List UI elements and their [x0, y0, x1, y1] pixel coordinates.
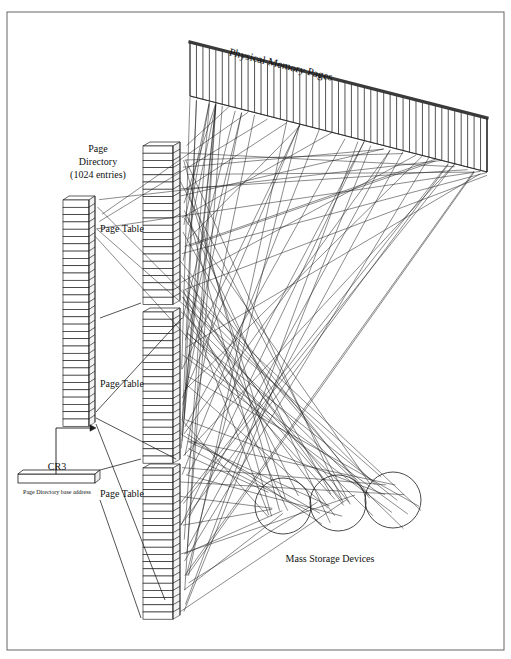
page-directory-cell: [63, 419, 89, 426]
page-table-top-cell: [143, 283, 173, 290]
page-directory-cell: [63, 200, 89, 207]
page-table-middle-cell: [143, 391, 173, 398]
page-table-top-cell: [143, 146, 173, 153]
page-directory-cell: [63, 222, 89, 229]
page-table-middle-cell: [143, 384, 173, 391]
page-table-top-cell: [143, 160, 173, 167]
disk-mapping-line: [97, 207, 375, 485]
page-directory-cell: [63, 317, 89, 324]
page-table-bottom-cell: [143, 605, 173, 612]
disk-mapping-line: [180, 261, 370, 499]
page-table-middle-cell: [143, 442, 173, 449]
page-table-bottom-cell: [143, 468, 173, 475]
page-table-middle-cell: [143, 355, 173, 362]
diagram-canvas: Physical Memory PagesPageDirectory(1024 …: [0, 0, 511, 659]
page-directory-cell: [63, 310, 89, 317]
page-directory-cell: [63, 237, 89, 244]
memory-mapping-line: [185, 175, 487, 289]
page-table-bottom-cell: [143, 569, 173, 576]
page-table-bottom-cell: [143, 562, 173, 569]
page-table-bottom-cell: [143, 518, 173, 525]
disk-mapping-line: [182, 355, 392, 513]
page-table-bottom-cell: [143, 583, 173, 590]
page-table-middle-cell: [143, 406, 173, 413]
page-table-middle-cell: [143, 362, 173, 369]
page-table-top-cell: [143, 204, 173, 211]
page-table-top-cell: [143, 240, 173, 247]
page-directory-pointer-line: [100, 303, 141, 318]
page-table-top-cell: [143, 218, 173, 225]
memory-mapping-line: [187, 172, 474, 174]
page-table-bottom-cell: [143, 497, 173, 504]
page-table-label-3: Page Table: [100, 488, 144, 499]
page-table-top-cell: [143, 153, 173, 160]
page-table-bottom-cell: [143, 612, 173, 619]
disk-mapping-line: [188, 355, 408, 514]
memory-mapping-line: [188, 102, 209, 224]
page-table-middle-cell: [143, 413, 173, 420]
memory-mapping-line: [184, 103, 216, 540]
memory-mapping-line: [186, 124, 299, 575]
page-directory-cell: [63, 302, 89, 309]
memory-mapping-line: [182, 96, 190, 369]
page-directory-cell: [63, 383, 89, 390]
memory-mapping-line: [188, 126, 300, 239]
memory-mapping-line: [184, 156, 422, 391]
page-table-bottom-cell: [143, 475, 173, 482]
page-directory-cell: [63, 266, 89, 273]
mass-storage-label: Mass Storage Devices: [286, 553, 375, 564]
page-table-middle-cell: [143, 319, 173, 326]
page-table-middle-cell: [143, 370, 173, 377]
page-table-top-cell: [143, 268, 173, 275]
page-table-bottom-cell: [143, 504, 173, 511]
page-directory-cell: [63, 258, 89, 265]
page-directory-cell: [63, 412, 89, 419]
page-table-middle-cell: [143, 420, 173, 427]
page-table-middle-cell: [143, 427, 173, 434]
page-table-bottom-cell: [143, 590, 173, 597]
disk-mapping-line: [187, 441, 329, 506]
disk-mapping-line: [185, 290, 421, 511]
page-directory-cell: [63, 215, 89, 222]
page-table-middle-cell: [143, 312, 173, 319]
cr3-label: CR3: [48, 461, 66, 472]
page-directory-cell: [63, 295, 89, 302]
page-directory-cell: [63, 288, 89, 295]
page-directory-cell: [63, 375, 89, 382]
page-table-top-cell: [143, 225, 173, 232]
memory-mapping-line: [184, 158, 428, 562]
disk-mapping-line: [184, 511, 282, 554]
disk-mapping-line: [183, 232, 331, 494]
page-directory-cell: [63, 368, 89, 375]
page-directory-cell: [63, 353, 89, 360]
memory-mapping-line: [185, 142, 357, 605]
page-table-middle-cell: [143, 456, 173, 463]
page-directory-pointer-line: [100, 500, 141, 618]
page-directory-cell: [63, 346, 89, 353]
page-table-bottom-cell: [143, 511, 173, 518]
page-table-middle-cell: [143, 348, 173, 355]
page-directory-cell: [63, 280, 89, 287]
disk-mapping-line: [188, 333, 373, 516]
page-table-top-cell: [143, 232, 173, 239]
page-directory-cell: [63, 207, 89, 214]
disk-mapping-line: [186, 475, 342, 516]
page-table-bottom-cell: [143, 533, 173, 540]
page-table-middle-cell: [143, 434, 173, 441]
page-directory-cell: [63, 229, 89, 236]
memory-mapping-line: [184, 100, 196, 420]
page-directory-label-line3: (1024 entries): [70, 169, 126, 181]
page-table-label-2: Page Table: [100, 378, 144, 389]
paging-diagram-figure: Physical Memory PagesPageDirectory(1024 …: [0, 0, 511, 659]
page-table-top-cell: [143, 175, 173, 182]
page-table-middle-cell: [143, 398, 173, 405]
cr3-register-box: [18, 474, 95, 483]
cr3-arrow-head: [90, 425, 96, 431]
page-directory-cell: [63, 390, 89, 397]
page-table-bottom-cell: [143, 526, 173, 533]
memory-mapping-line: [185, 159, 436, 246]
page-table-top-cell: [143, 297, 173, 304]
page-directory-cell: [63, 361, 89, 368]
page-table-bottom-cell: [143, 598, 173, 605]
page-table-top-cell: [143, 276, 173, 283]
